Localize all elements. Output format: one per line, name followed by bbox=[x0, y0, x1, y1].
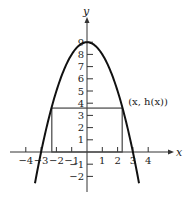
y-tick-label: 3 bbox=[78, 110, 84, 121]
x-axis-label: x bbox=[176, 146, 183, 159]
x-tick-label: −2 bbox=[49, 155, 64, 166]
x-tick-label: 2 bbox=[114, 155, 120, 166]
y-tick-label: 1 bbox=[78, 134, 84, 145]
y-tick-label: 2 bbox=[78, 122, 84, 133]
parabola-chart: xy−4−3−2−11234−2−1123456789(x, h(x)) bbox=[0, 0, 187, 202]
y-tick-label: 6 bbox=[78, 73, 84, 84]
plot-area: xy−4−3−2−11234−2−1123456789(x, h(x)) bbox=[10, 5, 183, 192]
y-tick-label: −1 bbox=[69, 159, 84, 170]
y-tick-label: 8 bbox=[78, 49, 84, 60]
y-tick-label: 7 bbox=[78, 61, 84, 72]
x-axis-arrow-icon bbox=[168, 150, 174, 155]
x-tick-label: 4 bbox=[145, 155, 151, 166]
y-tick-label: 5 bbox=[78, 86, 84, 97]
point-label: (x, h(x)) bbox=[128, 96, 168, 107]
x-tick-label: −4 bbox=[18, 155, 33, 166]
y-tick-label: −2 bbox=[69, 171, 84, 182]
y-tick-label: 4 bbox=[78, 98, 84, 109]
x-tick-label: 1 bbox=[99, 155, 105, 166]
y-axis-label: y bbox=[82, 5, 90, 18]
